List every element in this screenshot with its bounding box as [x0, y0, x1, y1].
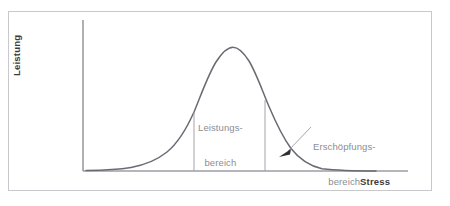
region-label-erschoepfungsbereich-line1: Erschöpfungs-: [313, 141, 376, 153]
region-label-erschoepfungsbereich-line2: bereich: [313, 176, 376, 188]
region-label-erschoepfungsbereich: Erschöpfungs- bereich: [313, 118, 376, 206]
callout-leader-line: [288, 127, 311, 151]
region-label-leistungsbereich-line1: Leistungs-: [198, 122, 243, 134]
callout-arrowhead-icon: [279, 149, 291, 157]
y-axis-label: Leistung: [11, 16, 23, 76]
region-label-leistungsbereich: Leistungs- bereich: [198, 99, 243, 191]
region-label-leistungsbereich-line2: bereich: [198, 157, 243, 169]
figure-container: Leistung Stress Leistungs- bereich Ersch…: [0, 0, 450, 206]
